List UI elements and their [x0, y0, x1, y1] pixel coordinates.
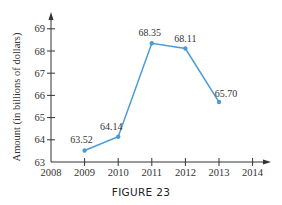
x-tick-label: 2010 [108, 167, 129, 178]
y-tick-label: 68 [35, 46, 46, 57]
data-point [183, 46, 187, 50]
figure-caption: FIGURE 23 [112, 186, 170, 198]
x-tick-label: 2008 [41, 167, 62, 178]
y-tick-label: 65 [35, 112, 46, 123]
line-chart: Amount (in billions of dollars) 63646566… [0, 0, 282, 205]
data-point-label: 64.14 [100, 121, 123, 132]
x-tick-label: 2009 [74, 167, 95, 178]
data-point-label: 68.35 [139, 27, 162, 38]
y-axis-title: Amount (in billions of dollars) [11, 32, 23, 161]
y-tick-label: 69 [35, 23, 46, 34]
y-tick-label: 63 [35, 157, 46, 168]
y-axis-ticks: 63646566676869 [35, 23, 56, 167]
y-tick-label: 64 [35, 134, 46, 145]
y-tick-label: 67 [35, 68, 46, 79]
data-point-label: 65.70 [215, 88, 238, 99]
data-point [150, 41, 154, 45]
x-tick-label: 2013 [209, 167, 230, 178]
x-tick-label: 2011 [141, 167, 162, 178]
x-axis-arrow-icon [263, 160, 271, 165]
data-point [217, 100, 221, 104]
y-tick-label: 66 [35, 90, 46, 101]
series-line [85, 43, 219, 150]
data-point-label: 63.52 [70, 134, 93, 145]
y-axis-label: Amount (in billions of dollars) [11, 32, 23, 161]
data-series: 63.5264.1468.3568.1165.70 [70, 27, 237, 152]
data-point [82, 148, 86, 152]
y-axis-arrow-icon [49, 12, 54, 20]
x-axis-ticks: 2008200920102011201220132014 [41, 158, 264, 178]
data-point-label: 68.11 [174, 33, 196, 44]
x-tick-label: 2012 [175, 167, 196, 178]
x-tick-label: 2014 [242, 167, 264, 178]
data-point [116, 134, 120, 138]
